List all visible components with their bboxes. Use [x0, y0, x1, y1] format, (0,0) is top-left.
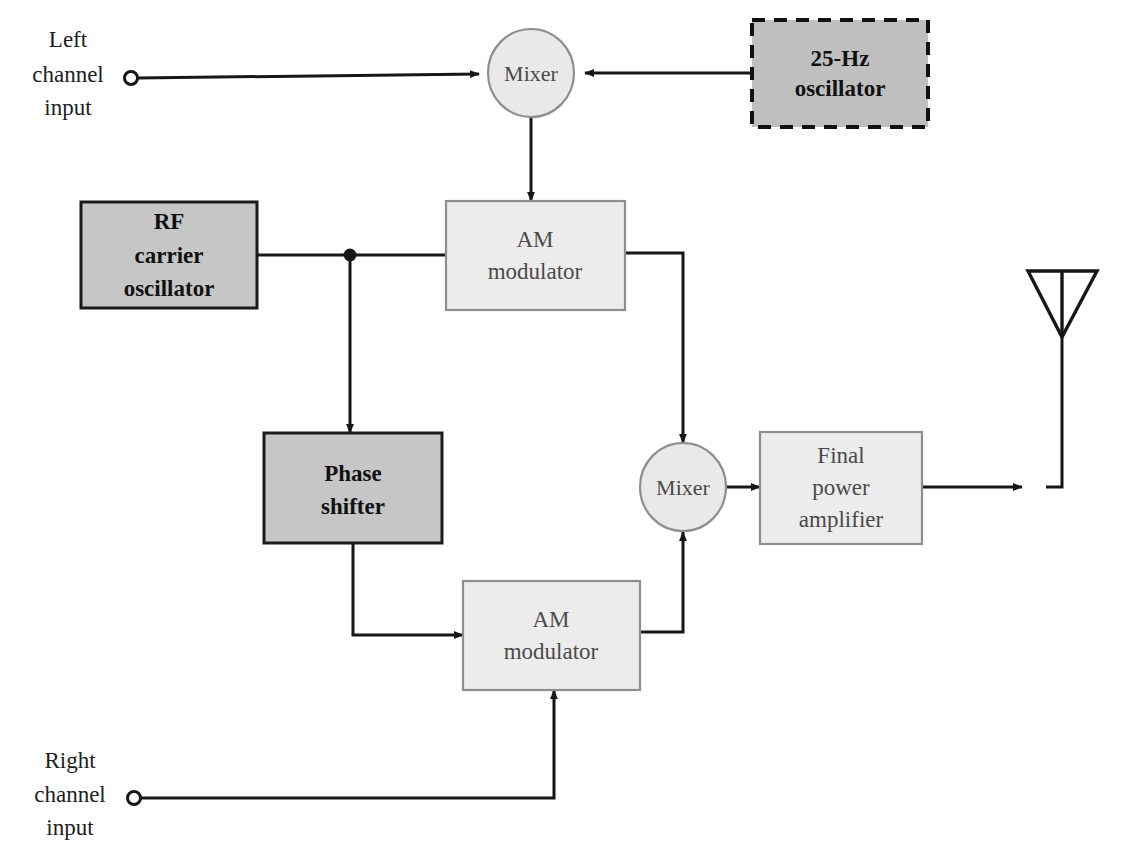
final-power-amplifier-label-line2: power [812, 475, 870, 500]
block-rf-carrier-oscillator[interactable]: RF carrier oscillator [81, 202, 257, 308]
block-oscillator-25hz[interactable]: 25-Hz oscillator [752, 20, 928, 127]
right-channel-input-line1: Right [44, 748, 96, 773]
block-diagram-canvas: 25-Hz oscillator RF carrier oscillator A… [0, 0, 1123, 864]
wire-left-input-to-mixer [138, 74, 479, 78]
block-am-modulator-upper[interactable]: AM modulator [446, 201, 625, 310]
rf-carrier-oscillator-label-line3: oscillator [124, 276, 215, 301]
right-channel-input-line2: channel [34, 782, 106, 807]
oscillator-25hz-label-line2: oscillator [795, 76, 886, 101]
block-final-power-amplifier[interactable]: Final power amplifier [760, 432, 922, 544]
oscillator-25hz-label-line1: 25-Hz [811, 46, 870, 71]
left-channel-input-line1: Left [49, 27, 88, 52]
left-channel-input-label: Left channel input [32, 27, 104, 120]
phase-shifter-label-line2: shifter [321, 494, 385, 519]
left-channel-input-line2: channel [32, 62, 104, 87]
mixer-upper-label: Mixer [504, 61, 558, 86]
right-channel-input-line3: input [46, 815, 94, 840]
phase-shifter-label-line1: Phase [324, 461, 382, 486]
rf-carrier-junction-dot [344, 249, 357, 262]
right-channel-input-terminal[interactable] [128, 792, 141, 805]
mixer-lower-label: Mixer [656, 475, 710, 500]
am-modulator-lower-label-line2: modulator [504, 639, 599, 664]
am-modulator-upper-label-line2: modulator [488, 259, 583, 284]
am-modulator-upper-box [446, 201, 625, 310]
am-modulator-lower-box [463, 581, 640, 690]
wire-phase-shifter-to-am-lower [353, 543, 463, 635]
left-channel-input-line3: input [44, 95, 92, 120]
rf-carrier-oscillator-label-line1: RF [154, 209, 185, 234]
block-diagram-svg: 25-Hz oscillator RF carrier oscillator A… [0, 0, 1123, 864]
oscillator-25hz-box [752, 20, 928, 127]
wire-right-input-to-am-lower [141, 690, 554, 798]
node-mixer-upper[interactable]: Mixer [488, 29, 574, 117]
am-modulator-lower-label-line1: AM [532, 607, 569, 632]
rf-carrier-oscillator-label-line2: carrier [135, 243, 204, 268]
antenna-icon [1028, 271, 1097, 337]
final-power-amplifier-label-line3: amplifier [799, 507, 884, 532]
block-phase-shifter[interactable]: Phase shifter [264, 433, 442, 543]
block-am-modulator-lower[interactable]: AM modulator [463, 581, 640, 690]
phase-shifter-box [264, 433, 442, 543]
left-channel-input-terminal[interactable] [125, 72, 138, 85]
wire-antenna-mast-corner [1046, 337, 1062, 487]
am-modulator-upper-label-line1: AM [516, 227, 553, 252]
wire-am-upper-to-mixer-lower [625, 253, 683, 443]
node-mixer-lower[interactable]: Mixer [640, 443, 726, 531]
input-terminals-layer [125, 72, 141, 805]
right-channel-input-label: Right channel input [34, 748, 106, 840]
wire-am-lower-to-mixer-lower [640, 532, 683, 632]
final-power-amplifier-label-line1: Final [817, 443, 864, 468]
